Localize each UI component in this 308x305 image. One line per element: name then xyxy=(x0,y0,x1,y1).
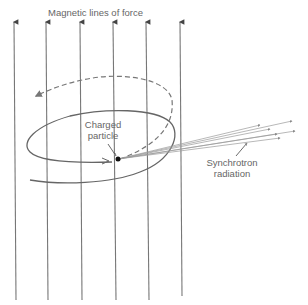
synchrotron-radiation-label-line2: radiation xyxy=(200,168,264,179)
field-line xyxy=(146,22,149,300)
synchrotron-radiation-label: Synchrotron radiation xyxy=(200,157,264,179)
radiation-rays xyxy=(118,121,295,159)
field-line xyxy=(113,22,116,300)
field-line xyxy=(46,22,48,300)
field-lines-label: Magnetic lines of force xyxy=(48,7,143,18)
charged-particle-label-line2: particle xyxy=(79,130,127,141)
field-line xyxy=(80,22,82,300)
orbit-direction-arrow xyxy=(102,158,109,164)
charged-particle-label: Charged particle xyxy=(79,119,127,141)
radiation-pointer xyxy=(236,143,247,156)
field-lines xyxy=(14,22,182,300)
synchrotron-radiation-label-line1: Synchrotron xyxy=(200,157,264,168)
orbit-dashed xyxy=(36,76,172,159)
charged-particle-label-line1: Charged xyxy=(79,119,127,130)
field-line xyxy=(14,22,16,300)
field-line xyxy=(180,22,182,296)
charged-particle xyxy=(116,157,121,162)
synchrotron-diagram xyxy=(0,0,308,305)
